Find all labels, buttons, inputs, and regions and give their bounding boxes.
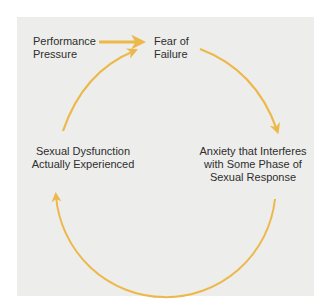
node-label-line: Pressure [33, 48, 96, 61]
node-performance-pressure: Performance Pressure [33, 35, 96, 61]
arrow-fear-to-anxiety [200, 49, 277, 130]
node-label-line: Sexual Dysfunction [28, 145, 138, 158]
node-label-line: Failure [154, 48, 189, 61]
arrow-anxiety-to-dysfunction [56, 196, 275, 297]
node-anxiety: Anxiety that Interferes with Some Phase … [198, 145, 308, 184]
node-dysfunction: Sexual Dysfunction Actually Experienced [28, 145, 138, 171]
node-fear-of-failure: Fear of Failure [154, 35, 189, 61]
node-label-line: Performance [33, 35, 96, 48]
node-label-line: Anxiety that Interferes [198, 145, 308, 158]
arrow-dysfunction-to-fear [63, 51, 134, 131]
node-label-line: Actually Experienced [28, 158, 138, 171]
node-label-line: with Some Phase of [198, 158, 308, 171]
node-label-line: Fear of [154, 35, 189, 48]
node-label-line: Sexual Response [198, 171, 308, 184]
